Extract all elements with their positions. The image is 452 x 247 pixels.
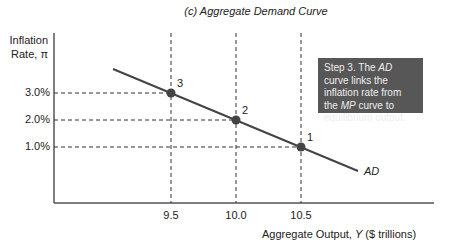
point-label-1: 1: [307, 131, 313, 143]
point-3: [167, 89, 176, 98]
y-tick-1.0: 1.0%: [10, 140, 50, 152]
note-italic-mp: MP: [341, 100, 356, 111]
point-2: [232, 116, 241, 125]
note-text-1: Step 3. The: [324, 62, 378, 73]
y-tick-2.0: 2.0%: [10, 113, 50, 125]
step-annotation-box: Step 3. The AD curve links the inflation…: [318, 58, 423, 113]
point-label-2: 2: [242, 104, 248, 116]
x-tick-10.0: 10.0: [216, 209, 256, 221]
x-tick-10.5: 10.5: [281, 209, 321, 221]
y-tick-3.0: 3.0%: [10, 86, 50, 98]
curve-label-ad: AD: [364, 165, 379, 177]
point-1: [297, 143, 306, 152]
note-italic-ad: AD: [378, 62, 392, 73]
x-tick-9.5: 9.5: [151, 209, 191, 221]
x-axis-label-prefix: Aggregate Output,: [262, 228, 355, 240]
point-label-3: 3: [177, 77, 183, 89]
x-axis-label-suffix: ($ trillions): [362, 228, 416, 240]
x-axis-label: Aggregate Output, Y ($ trillions): [262, 228, 416, 240]
